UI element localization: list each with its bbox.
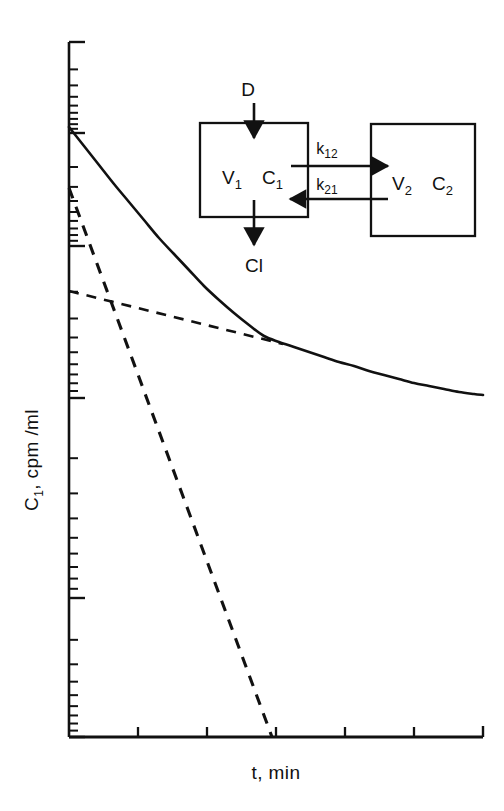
x-axis-ticks: [138, 727, 414, 737]
rate-constant-k21-label: k21: [316, 176, 338, 197]
x-axis-label: t, min: [252, 762, 301, 783]
semilog-plot-canvas: t, min C1, cpm /ml: [0, 0, 504, 811]
axis-frame: [69, 42, 483, 737]
clearance-output-label: Cl: [245, 255, 263, 276]
alpha-phase-dashed-line: [69, 188, 272, 737]
y-axis-label-main: C: [21, 497, 42, 511]
y-axis-label-subscript: 1: [32, 490, 46, 497]
compartment-2-box: [371, 124, 475, 236]
y-axis-label: C1, cpm /ml: [21, 409, 46, 511]
compartment-2-volume-label: V2: [392, 173, 412, 198]
compartment-1-volume-label: V1: [222, 167, 242, 192]
two-compartment-diagram: V1 C1 V2 C2 D Cl k12: [200, 79, 475, 276]
compartment-1-concentration-label: C1: [262, 167, 283, 192]
y-axis-label-units: , cpm /ml: [21, 409, 42, 490]
figure-root: t, min C1, cpm /ml: [0, 0, 504, 811]
beta-phase-dashed-line: [69, 291, 283, 344]
plot-series-group: [69, 127, 483, 737]
biexponential-curve: [69, 127, 483, 395]
dose-input-label: D: [241, 79, 255, 100]
y-axis-label-group: C1, cpm /ml: [21, 409, 46, 511]
rate-constant-k12-label: k12: [316, 140, 338, 161]
x-axis-label-group: t, min: [252, 762, 301, 783]
compartment-2-concentration-label: C2: [432, 173, 453, 198]
